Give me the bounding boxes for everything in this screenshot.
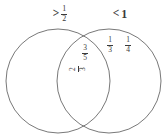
fraction-denominator: 4 <box>126 46 131 54</box>
fraction-numerator: 1 <box>126 36 131 44</box>
fraction-numerator: 1 <box>108 36 113 44</box>
right-set-item: 1 3 <box>104 36 116 54</box>
fraction: 2 3 <box>69 66 87 72</box>
fraction: 1 3 <box>107 36 113 54</box>
fraction-denominator: 3 <box>108 46 113 54</box>
fraction-denominator: 3 <box>79 67 87 72</box>
left-circle <box>6 29 110 133</box>
fraction-numerator: 2 <box>69 67 77 72</box>
venn-diagram: > 1 2 < 1 3 5 2 3 1 3 <box>0 0 167 135</box>
overlap-item: 2 3 <box>72 60 84 78</box>
right-set-item: 1 4 <box>122 36 134 54</box>
fraction-numerator: 3 <box>83 44 88 52</box>
fraction: 1 4 <box>125 36 131 54</box>
